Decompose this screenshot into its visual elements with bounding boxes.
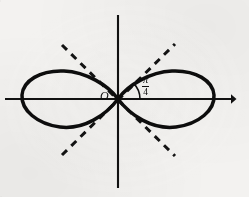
x-axis-arrow-icon xyxy=(231,94,237,104)
angle-label-numerator: π xyxy=(142,75,149,86)
lemniscate-figure: O π 4 xyxy=(0,0,249,197)
angle-arc-marker xyxy=(134,83,140,99)
angle-label-denominator: 4 xyxy=(142,88,149,98)
origin-label: O xyxy=(100,90,109,102)
plot-canvas xyxy=(0,0,249,197)
angle-label-pi-over-4: π 4 xyxy=(142,75,149,97)
